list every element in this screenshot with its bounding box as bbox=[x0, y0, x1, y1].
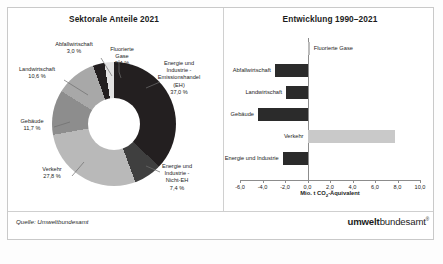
x-axis-tick bbox=[420, 180, 421, 183]
registered-mark-icon: ® bbox=[426, 217, 429, 222]
x-axis-tick bbox=[263, 180, 264, 183]
bar-plot-area: -6,0-4,0-2,00,02,04,06,08,010,0Fluoriert… bbox=[240, 38, 420, 198]
bar-label-landwirtschaft: Landwirtschaft bbox=[245, 86, 282, 99]
right-panel-title: Entwicklung 1990–2021 bbox=[232, 14, 428, 24]
left-panel-title: Sektorale Anteile 2021 bbox=[14, 14, 214, 24]
source-note: Quelle: Umweltbundesamt bbox=[16, 218, 89, 225]
x-axis-tick bbox=[330, 180, 331, 183]
bar-label-geb-ude: Gebäude bbox=[231, 108, 254, 121]
bar-label-abfallwirtschaft: Abfallwirtschaft bbox=[233, 64, 271, 77]
x-axis-tick bbox=[398, 180, 399, 183]
bar-label-verkehr: Verkehr bbox=[284, 130, 304, 143]
figure-root: Sektorale Anteile 2021 Entwicklung 1990–… bbox=[0, 0, 443, 264]
x-axis-tick bbox=[353, 180, 354, 183]
bar-landwirtschaft bbox=[286, 86, 307, 99]
development-bar-chart: -6,0-4,0-2,00,02,04,06,08,010,0Fluoriert… bbox=[232, 38, 428, 208]
x-axis-tick bbox=[285, 180, 286, 183]
bar-geb-ude bbox=[258, 108, 308, 121]
pie-label-gebaeude: Gebäude 11,7 % bbox=[11, 118, 53, 132]
logo-bold-part: umwelt bbox=[347, 216, 379, 227]
x-axis-tick bbox=[240, 180, 241, 183]
bar-label-fluorierte-gase: Fluorierte Gase bbox=[314, 42, 353, 55]
panel-divider bbox=[223, 8, 224, 211]
donut-hole bbox=[88, 98, 140, 150]
pie-label-verkehr: Verkehr 27,8 % bbox=[30, 166, 74, 180]
footer-rule bbox=[8, 211, 433, 212]
zero-axis-line bbox=[308, 38, 309, 180]
x-axis-tick bbox=[308, 180, 309, 183]
x-axis-title: Mio. t CO2-Äquivalent bbox=[232, 190, 428, 198]
pie-label-abfallwirtschaft: Abfallwirtschaft 3,0 % bbox=[46, 41, 102, 55]
pie-label-fluorierte-gase: Fluorierte Gase 2,4 % bbox=[105, 46, 139, 68]
logo-light-part: bundesamt bbox=[380, 216, 426, 227]
pie-label-landwirtschaft: Landwirtschaft 10,6 % bbox=[11, 66, 63, 80]
bar-label-energie-und-industrie: Energie und Industrie bbox=[225, 152, 279, 165]
x-axis-tick bbox=[375, 180, 376, 183]
bar-fluorierte-gase bbox=[308, 42, 310, 55]
bar-verkehr bbox=[308, 130, 396, 143]
umweltbundesamt-logo: umweltbundesamt® bbox=[347, 216, 429, 227]
pie-label-energie-industrie-eh: Energie und Industrie - Emissionshandel … bbox=[148, 60, 210, 96]
bar-abfallwirtschaft bbox=[275, 64, 308, 77]
pie-label-energie-industrie-nicht-eh: Energie und Industrie - Nicht-EH 7,4 % bbox=[148, 163, 206, 192]
bar-energie-und-industrie bbox=[283, 152, 308, 165]
